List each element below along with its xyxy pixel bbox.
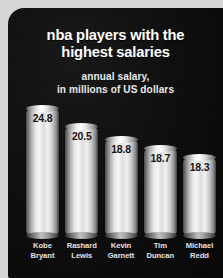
category-label-line-2: Lewis	[65, 251, 98, 261]
chart-frame: nba players with the highest salaries an…	[0, 0, 223, 278]
bar-kobe-bryant: 24.8	[26, 108, 59, 236]
category-label-line-2: Duncan	[144, 251, 177, 261]
bar-rashard-lewis: 20.5	[65, 126, 98, 236]
bar-kevin-garnett: 18.8	[105, 139, 138, 236]
category-labels: Kobe Bryant Rashard Lewis Kevin Garnett …	[26, 241, 216, 260]
category-label-tim-duncan: Tim Duncan	[144, 241, 177, 260]
bar-slot-rashard-lewis: 20.5	[65, 108, 98, 236]
bar-value-michael-redd: 18.3	[183, 161, 216, 173]
category-label-line-2: Bryant	[26, 251, 59, 261]
bar-tim-duncan: 18.7	[144, 148, 177, 236]
bar-slot-kevin-garnett: 18.8	[105, 108, 138, 236]
category-label-line-2: Redd	[183, 251, 216, 261]
bar-value-rashard-lewis: 20.5	[65, 130, 98, 142]
category-label-rashard-lewis: Rashard Lewis	[65, 241, 98, 260]
category-label-line-1: Kevin	[105, 241, 138, 251]
chart-panel: nba players with the highest salaries an…	[8, 8, 223, 278]
bar-slot-tim-duncan: 18.7	[144, 108, 177, 236]
category-label-kobe-bryant: Kobe Bryant	[26, 241, 59, 260]
category-label-line-1: Tim	[144, 241, 177, 251]
category-label-line-1: Michael	[183, 241, 216, 251]
category-label-kevin-garnett: Kevin Garnett	[105, 241, 138, 260]
chart-subtitle-line-1: annual salary,	[22, 70, 209, 83]
category-label-line-1: Kobe	[26, 241, 59, 251]
bar-value-kevin-garnett: 18.8	[105, 143, 138, 155]
chart-subtitle: annual salary, in millions of US dollars	[8, 70, 223, 96]
bar-michael-redd: 18.3	[183, 157, 216, 236]
bar-slot-michael-redd: 18.3	[183, 108, 216, 236]
chart-title-line-1: nba players with the	[23, 26, 208, 43]
plot-area: 24.8 20.5 18.8 18.7 18.3	[26, 108, 216, 236]
bar-value-kobe-bryant: 24.8	[26, 112, 59, 124]
chart-title-line-2: highest salaries	[23, 43, 208, 60]
category-label-michael-redd: Michael Redd	[183, 241, 216, 260]
bar-slot-kobe-bryant: 24.8	[26, 108, 59, 236]
chart-subtitle-line-2: in millions of US dollars	[22, 83, 209, 96]
category-label-line-1: Rashard	[65, 241, 98, 251]
category-label-line-2: Garnett	[105, 251, 138, 261]
chart-title: nba players with the highest salaries	[8, 26, 223, 60]
bar-value-tim-duncan: 18.7	[144, 152, 177, 164]
